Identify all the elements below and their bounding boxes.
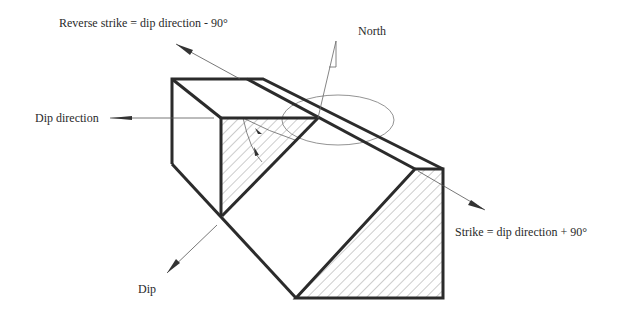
north-label: North [358,24,386,38]
reverse-strike-label: Reverse strike = dip direction - 90° [59,16,228,30]
dip-direction-label: Dip direction [35,111,99,125]
dip-arrow [167,225,217,273]
north-arrow [318,41,336,118]
reverse-strike-arrow [176,44,240,79]
dip-direction-arrow [110,116,214,120]
dip-label: Dip [138,282,156,296]
hatched-end-face [296,169,443,298]
strike-label: Strike = dip direction + 90° [455,225,587,239]
strike-dip-diagram [0,0,619,320]
